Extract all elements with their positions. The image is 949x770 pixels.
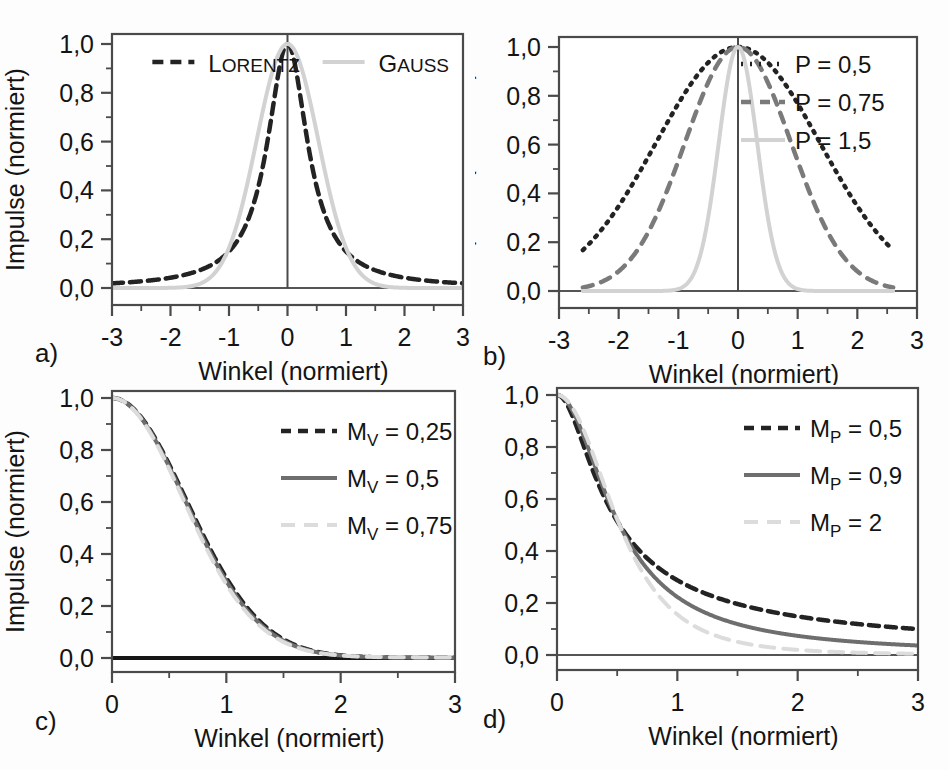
- y-tick-label: 0,0: [506, 277, 541, 305]
- y-tick-label: 1,0: [59, 385, 94, 412]
- y-tick-label: 0,6: [506, 131, 541, 159]
- y-tick-label: 0,4: [59, 176, 94, 204]
- y-tick-label: 0,2: [506, 228, 541, 256]
- x-tick-label: -1: [218, 323, 240, 351]
- y-tick-label: 1,0: [506, 33, 541, 61]
- plot-panel-d: 01230,00,20,40,60,81,0Winkel (normiert)I…: [475, 385, 949, 770]
- y-tick-label: 0,8: [59, 436, 94, 464]
- y-tick-label: 0,4: [59, 540, 94, 568]
- legend-label: P = 0,5: [795, 51, 871, 78]
- x-tick-label: 3: [448, 690, 462, 718]
- x-tick-label: 2: [334, 690, 348, 718]
- plot-panel-b: -3-2-101230,00,20,40,60,81,0Winkel (norm…: [475, 0, 949, 385]
- y-tick-label: 0,4: [504, 537, 539, 565]
- x-tick-label: 1: [670, 688, 684, 716]
- y-tick-label: 0,2: [59, 225, 94, 253]
- legend-label: P = 0,75: [795, 89, 885, 116]
- y-tick-label: 0,0: [504, 641, 539, 669]
- chart-d: 01230,00,20,40,60,81,0Winkel (normiert)I…: [475, 385, 949, 770]
- y-tick-label: 0,6: [59, 488, 94, 516]
- y-tick-label: 0,6: [59, 128, 94, 156]
- y-tick-label: 0,4: [506, 179, 541, 207]
- x-tick-label: -2: [608, 326, 630, 354]
- x-tick-label: 2: [791, 688, 805, 716]
- figure-root: -3-2-101230,00,20,40,60,81,0Winkel (norm…: [0, 0, 949, 770]
- y-tick-label: 0,0: [59, 644, 94, 672]
- chart-a: -3-2-101230,00,20,40,60,81,0Winkel (norm…: [0, 0, 475, 385]
- x-tick-label: -2: [159, 323, 181, 351]
- x-axis-title: Winkel (normiert): [198, 357, 388, 385]
- x-tick-label: -3: [548, 326, 570, 354]
- x-tick-label: 3: [456, 323, 470, 351]
- x-tick-label: -1: [667, 326, 689, 354]
- chart-c: 01230,00,20,40,60,81,0Winkel (normiert)I…: [0, 385, 475, 770]
- x-tick-label: 1: [791, 326, 805, 354]
- panel-label-a: a): [35, 338, 58, 368]
- x-tick-label: 2: [398, 323, 412, 351]
- legend-label: P = 1,5: [795, 127, 871, 154]
- x-axis-title: Winkel (normiert): [649, 360, 839, 385]
- x-tick-label: 0: [281, 323, 295, 351]
- y-tick-label: 1,0: [504, 385, 539, 409]
- x-axis-title: Winkel (normiert): [194, 724, 384, 752]
- x-tick-label: 3: [911, 688, 925, 716]
- y-tick-label: 0,2: [59, 592, 94, 620]
- y-tick-label: 0,2: [504, 589, 539, 617]
- x-axis-title: Winkel (normiert): [648, 722, 838, 750]
- panel-label-b: b): [483, 341, 506, 371]
- y-tick-label: 0,8: [506, 82, 541, 110]
- y-axis-title: Impulse (normiert): [475, 71, 476, 274]
- x-tick-label: 1: [219, 690, 233, 718]
- y-tick-label: 1,0: [59, 30, 94, 58]
- legend-label: LORENTZ: [208, 50, 300, 77]
- y-tick-label: 0,0: [59, 274, 94, 302]
- plot-panel-a: -3-2-101230,00,20,40,60,81,0Winkel (norm…: [0, 0, 475, 385]
- chart-b: -3-2-101230,00,20,40,60,81,0Winkel (norm…: [475, 0, 949, 385]
- y-tick-label: 0,8: [504, 433, 539, 461]
- x-tick-label: 0: [731, 326, 745, 354]
- x-tick-label: 2: [850, 326, 864, 354]
- panel-label-c: c): [35, 706, 57, 736]
- y-tick-label: 0,8: [59, 79, 94, 107]
- x-tick-label: 3: [910, 326, 924, 354]
- y-axis-title: Impulse (normiert): [1, 68, 29, 271]
- x-tick-label: -3: [101, 323, 123, 351]
- legend-label: GAUSS: [379, 50, 449, 77]
- y-tick-label: 0,6: [504, 485, 539, 513]
- plot-panel-c: 01230,00,20,40,60,81,0Winkel (normiert)I…: [0, 385, 475, 770]
- x-tick-label: 0: [105, 690, 119, 718]
- x-tick-label: 0: [550, 688, 564, 716]
- x-tick-label: 1: [339, 323, 353, 351]
- y-axis-title: Impulse (normiert): [1, 430, 29, 633]
- panel-label-d: d): [483, 704, 506, 734]
